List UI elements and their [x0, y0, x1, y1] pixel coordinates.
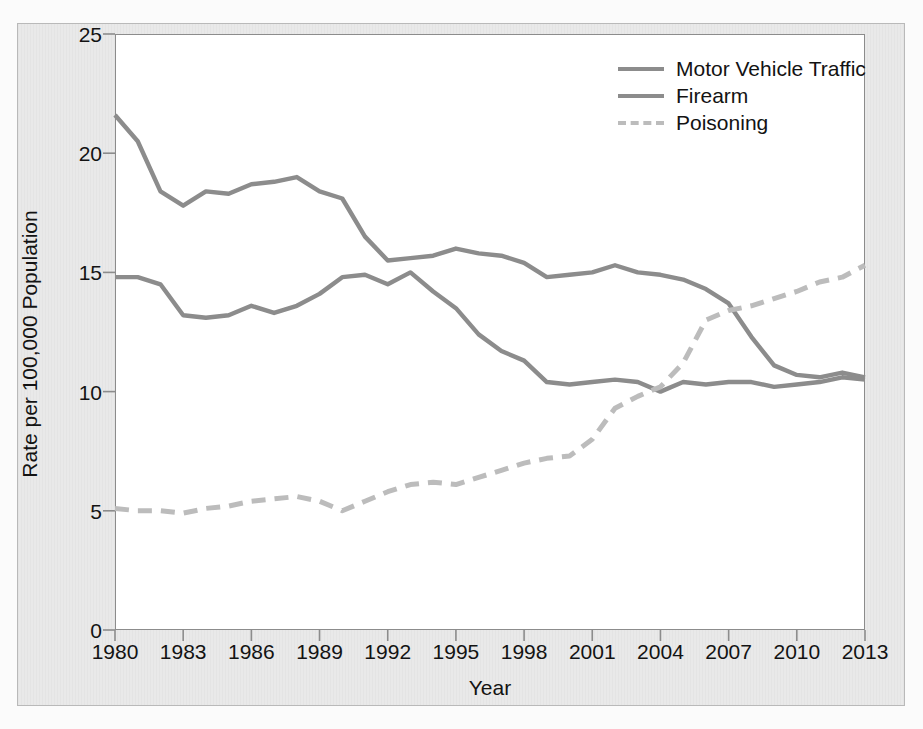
y-tick-label: 15: [56, 262, 102, 283]
y-tick-label: 10: [56, 381, 102, 402]
y-axis-tick-labels: 2520151050: [40, 0, 102, 729]
legend-item: Poisoning: [618, 109, 866, 136]
y-axis-title: Rate per 100,000 Population: [18, 109, 42, 579]
x-tick-label: 1998: [489, 641, 559, 662]
y-tick-label: 25: [56, 24, 102, 45]
x-tick-label: 2001: [557, 641, 627, 662]
x-tick-label: 2007: [694, 641, 764, 662]
x-tick-label: 1989: [285, 641, 355, 662]
legend-line-sample: [618, 121, 664, 125]
x-tick-label: 1983: [148, 641, 218, 662]
legend-line-sample: [618, 94, 664, 98]
x-tick-label: 1992: [353, 641, 423, 662]
chart-legend: Motor Vehicle TrafficFirearmPoisoning: [618, 55, 866, 136]
legend-swatch-dashed: [618, 116, 664, 130]
y-tick-label: 20: [56, 143, 102, 164]
x-tick-label: 1980: [80, 641, 150, 662]
legend-swatch-solid: [618, 89, 664, 103]
figure-canvas: 2520151050 19801983198619891992199519982…: [0, 0, 923, 729]
x-tick-label: 1995: [421, 641, 491, 662]
legend-label: Poisoning: [676, 112, 768, 133]
legend-item: Firearm: [618, 82, 866, 109]
legend-label: Motor Vehicle Traffic: [676, 58, 866, 79]
x-axis-title: Year: [115, 676, 865, 700]
x-tick-label: 2004: [625, 641, 695, 662]
x-tick-label: 2010: [762, 641, 832, 662]
y-tick-label: 0: [56, 620, 102, 641]
legend-swatch-solid: [618, 62, 664, 76]
x-tick-label: 1986: [216, 641, 286, 662]
legend-line-sample: [618, 67, 664, 71]
legend-item: Motor Vehicle Traffic: [618, 55, 866, 82]
y-tick-label: 5: [56, 500, 102, 521]
x-tick-label: 2013: [830, 641, 900, 662]
legend-label: Firearm: [676, 85, 748, 106]
